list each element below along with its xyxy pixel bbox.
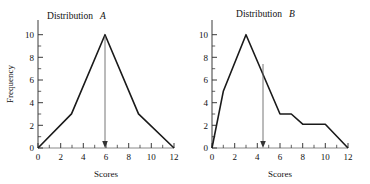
chart-a-title-main: Distribution	[47, 11, 93, 21]
chart-b-y-tick-10: 10	[199, 30, 209, 40]
chart-b-title: Distribution B	[236, 9, 295, 19]
chart-panel-distribution-b: Distribution B	[185, 0, 370, 184]
chart-a-x-tick-8: 8	[126, 152, 131, 162]
chart-a-x-tick-6: 6	[104, 152, 109, 162]
chart-b-x-tick-8: 8	[300, 152, 305, 162]
chart-b-y-tick-4: 4	[204, 98, 209, 108]
chart-b-x-tick-10: 10	[321, 152, 331, 162]
chart-a-y-tick-6: 6	[30, 75, 35, 85]
chart-b-x-tick-labels: 0 2 4 6 8 10 12	[210, 152, 353, 162]
chart-b-x-tick-0: 0	[210, 152, 215, 162]
chart-a-y-tick-labels: 0 2 4 6 8 10	[25, 30, 35, 153]
chart-a-y-tick-2: 2	[30, 121, 35, 131]
chart-a-data-line	[38, 35, 174, 148]
chart-a-svg: Distribution A	[0, 0, 185, 184]
chart-b-y-tick-labels: 0 2 4 6 8 10	[199, 30, 209, 153]
chart-b-svg: Distribution B	[185, 0, 370, 184]
chart-b-x-major-ticks	[212, 143, 348, 148]
chart-b-y-tick-2: 2	[204, 121, 209, 131]
chart-b-mean-arrow	[260, 64, 266, 148]
chart-b-title-italic: B	[289, 9, 295, 19]
chart-a-x-axis-label: Scores	[94, 169, 118, 179]
chart-a-x-tick-0: 0	[36, 152, 41, 162]
chart-a-mean-arrow	[102, 36, 108, 148]
chart-b-x-axis-label: Scores	[268, 169, 292, 179]
chart-a-title-italic: A	[99, 11, 106, 21]
chart-b-x-tick-2: 2	[232, 152, 237, 162]
chart-a-x-tick-12: 12	[170, 152, 179, 162]
chart-panel-distribution-a: Distribution A	[0, 0, 185, 184]
chart-b-title-main: Distribution	[236, 9, 282, 19]
chart-b-data-line	[212, 35, 348, 148]
chart-b-x-tick-12: 12	[344, 152, 353, 162]
chart-a-y-tick-0: 0	[30, 143, 35, 153]
chart-b-y-tick-8: 8	[204, 53, 209, 63]
chart-a-y-tick-8: 8	[30, 53, 35, 63]
chart-a-x-tick-4: 4	[81, 152, 86, 162]
chart-a-y-axis-label: Frequency	[5, 65, 15, 103]
chart-b-x-tick-6: 6	[278, 152, 283, 162]
chart-a-x-tick-10: 10	[147, 152, 157, 162]
chart-a-y-tick-10: 10	[25, 30, 35, 40]
chart-b-y-tick-0: 0	[204, 143, 209, 153]
chart-a-y-tick-4: 4	[30, 98, 35, 108]
chart-a-title: Distribution A	[47, 11, 106, 21]
chart-b-y-tick-6: 6	[204, 75, 209, 85]
chart-a-x-tick-labels: 0 2 4 6 8 10 12	[36, 152, 179, 162]
figure-root: Distribution A	[0, 0, 370, 184]
chart-b-x-tick-4: 4	[255, 152, 260, 162]
chart-a-x-tick-2: 2	[58, 152, 63, 162]
